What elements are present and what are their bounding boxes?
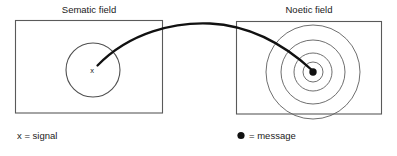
diagram-figure: Sematic field Noetic field x x = signal … (0, 0, 397, 156)
message-dot (309, 68, 316, 75)
sematic-field-label: Sematic field (62, 4, 116, 15)
noetic-field-label: Noetic field (286, 4, 333, 15)
legend-signal-text: x = signal (17, 130, 57, 141)
sematic-field-box (16, 21, 163, 114)
signal-to-message-arrow (98, 23, 314, 71)
legend-message-text: = message (249, 130, 296, 141)
diagram-canvas: Sematic field Noetic field x x = signal … (0, 0, 397, 156)
legend-message-dot-icon (237, 132, 244, 139)
signal-x-marker: x (90, 66, 94, 75)
